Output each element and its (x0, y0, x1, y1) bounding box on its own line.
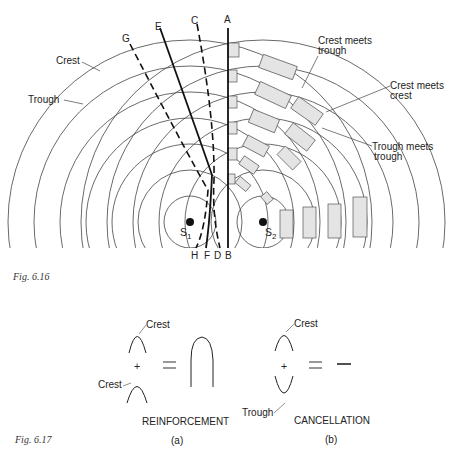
trough-label: Trough (28, 94, 59, 105)
crest-meets-trough-label-2: trough (318, 45, 346, 56)
crest-bottom-leader (123, 383, 131, 386)
crest-top-label: Crest (146, 319, 170, 330)
source-s2-label: S2 (265, 226, 277, 241)
reinforcement-title: REINFORCEMENT (142, 416, 229, 427)
line-label-h: H (191, 250, 198, 261)
crest-curve (275, 336, 293, 352)
crest-bottom-curve (127, 387, 147, 404)
fig-6-16-caption: Fig. 6.16 (12, 271, 49, 282)
crest-label: Crest (56, 55, 80, 66)
panel-a-label: (a) (171, 435, 183, 446)
trough-leader-b (274, 403, 285, 413)
fig-6-17-caption: Fig. 6.17 (14, 434, 52, 445)
line-label-g: G (122, 33, 130, 44)
trough-label-b: Trough (242, 407, 273, 418)
trough-meets-trough-label-2: trough (374, 151, 402, 162)
trough-curve (275, 376, 293, 393)
crest-label-b: Crest (294, 318, 318, 329)
interference-diagram: S1 S2 G E C A H F D B Crest Trough Crest… (0, 0, 457, 467)
crest-bottom-label: Crest (98, 379, 122, 390)
cancellation-panel: Crest + Trough CANCELLATION (b) (242, 318, 370, 445)
source-s1-label: S1 (180, 226, 192, 241)
panel-b-label: (b) (325, 434, 337, 445)
line-g-h (130, 44, 208, 248)
plus-sign-a: + (134, 360, 140, 372)
line-label-d: D (214, 250, 221, 261)
line-c-d (197, 24, 220, 248)
line-label-a: A (224, 14, 231, 25)
source-s2-dot (259, 218, 267, 226)
interference-regions (228, 43, 367, 238)
trough-leader (64, 100, 83, 104)
line-label-e: E (155, 21, 162, 32)
crest-meets-crest-label-2: crest (390, 90, 412, 101)
reinforcement-panel: Crest + Crest REINFORCEMENT (a) (98, 319, 229, 446)
interference-lines (130, 24, 228, 248)
crest-top-curve (129, 337, 146, 354)
crest-meets-crest-leader (326, 86, 390, 112)
reinforced-crest-curve (191, 337, 213, 387)
line-label-b: B (225, 250, 232, 261)
line-label-c: C (191, 15, 198, 26)
line-label-f: F (204, 250, 210, 261)
cancellation-title: CANCELLATION (294, 415, 370, 426)
source-s1-dot (186, 218, 194, 226)
crest-top-leader (139, 325, 146, 334)
crest-leader-b (286, 324, 294, 332)
plus-sign-b: + (281, 360, 287, 372)
